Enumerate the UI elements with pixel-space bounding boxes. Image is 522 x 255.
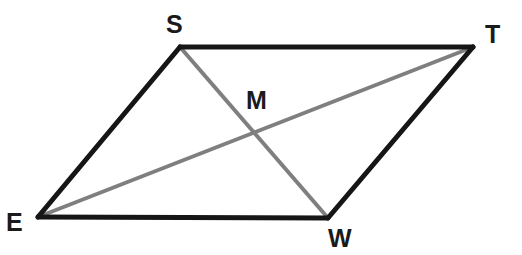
edge-E-S	[38, 47, 180, 217]
geometry-figure: S T W E M	[0, 0, 522, 255]
vertex-label-M: M	[246, 88, 267, 113]
edge-T-W	[328, 47, 473, 218]
figure-canvas	[0, 0, 522, 255]
diagonals-group	[38, 47, 473, 218]
edge-W-E	[38, 217, 328, 218]
vertex-label-E: E	[6, 210, 23, 235]
vertex-label-S: S	[166, 12, 183, 37]
vertex-label-W: W	[328, 226, 352, 251]
diagonal-E-T	[38, 47, 473, 217]
vertex-label-T: T	[485, 22, 500, 47]
